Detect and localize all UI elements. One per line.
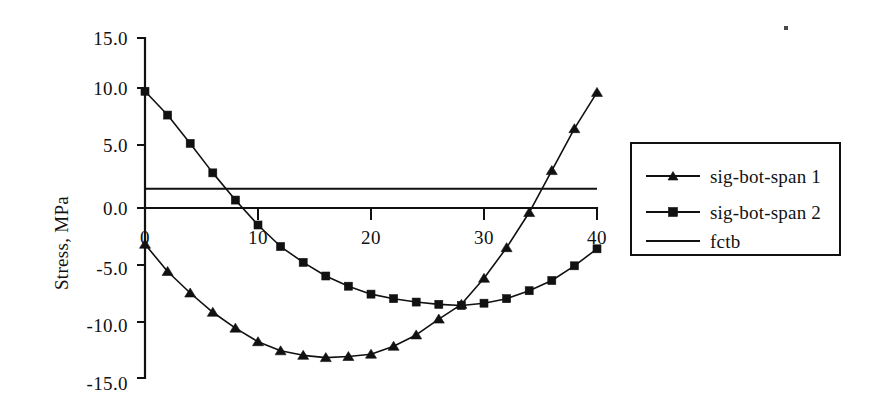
triangle-marker-icon bbox=[501, 243, 512, 252]
square-marker-icon bbox=[457, 301, 465, 309]
y-tick-label: -5.0 bbox=[96, 258, 128, 279]
triangle-marker-icon bbox=[388, 341, 399, 350]
square-marker-icon bbox=[367, 290, 375, 298]
square-marker-icon bbox=[480, 299, 488, 307]
square-marker-icon bbox=[669, 208, 678, 217]
y-tick-label: 5.0 bbox=[103, 135, 128, 156]
x-tick-label: 30 bbox=[474, 227, 494, 248]
legend-label: fctb bbox=[710, 231, 740, 252]
square-marker-icon bbox=[141, 87, 149, 95]
chart-figure: Stress, MPa 15.0 10.0 5.0 0.0 -5.0 -10.0… bbox=[0, 0, 895, 412]
square-marker-icon bbox=[435, 300, 443, 308]
y-tick-label: 15.0 bbox=[93, 28, 128, 49]
square-marker-icon bbox=[186, 139, 194, 147]
square-marker-icon bbox=[593, 245, 601, 253]
triangle-marker-icon bbox=[546, 166, 557, 175]
series-polyline bbox=[145, 92, 597, 357]
series-polyline bbox=[145, 91, 597, 305]
y-tick-labels: 15.0 10.0 5.0 0.0 -5.0 -10.0 -15.0 bbox=[86, 28, 128, 394]
triangle-marker-icon bbox=[253, 337, 264, 346]
y-tick-label: 0.0 bbox=[103, 198, 128, 219]
triangle-marker-icon bbox=[366, 349, 377, 358]
legend-label: sig-bot-span 2 bbox=[710, 202, 821, 223]
triangle-marker-icon bbox=[275, 346, 286, 355]
square-marker-icon bbox=[277, 243, 285, 251]
triangle-marker-icon bbox=[569, 124, 580, 133]
y-tick-label: -10.0 bbox=[86, 315, 128, 336]
square-marker-icon bbox=[164, 111, 172, 119]
x-tick-label: 10 bbox=[248, 227, 268, 248]
data-series bbox=[140, 87, 603, 361]
series-layer bbox=[140, 87, 603, 361]
scan-speck-artifact bbox=[784, 26, 788, 30]
y-tick-label: 10.0 bbox=[93, 78, 128, 99]
data-series bbox=[141, 87, 601, 309]
triangle-marker-icon bbox=[433, 314, 444, 323]
y-tick-label: -15.0 bbox=[86, 373, 128, 394]
chart-canvas: Stress, MPa 15.0 10.0 5.0 0.0 -5.0 -10.0… bbox=[0, 0, 895, 412]
square-marker-icon bbox=[322, 272, 330, 280]
triangle-marker-icon bbox=[479, 273, 490, 282]
square-marker-icon bbox=[299, 258, 307, 266]
y-axis-title: Stress, MPa bbox=[51, 196, 72, 290]
square-marker-icon bbox=[548, 277, 556, 285]
square-marker-icon bbox=[390, 295, 398, 303]
square-marker-icon bbox=[209, 169, 217, 177]
square-marker-icon bbox=[503, 295, 511, 303]
triangle-marker-icon bbox=[592, 87, 603, 96]
legend-label: sig-bot-span 1 bbox=[710, 166, 821, 187]
square-marker-icon bbox=[254, 221, 262, 229]
square-marker-icon bbox=[412, 298, 420, 306]
square-marker-icon bbox=[344, 282, 352, 290]
x-tick-labels: 0 10 20 30 40 bbox=[140, 227, 607, 248]
x-tick-label: 20 bbox=[361, 227, 381, 248]
square-marker-icon bbox=[525, 287, 533, 295]
square-marker-icon bbox=[570, 262, 578, 270]
square-marker-icon bbox=[231, 196, 239, 204]
